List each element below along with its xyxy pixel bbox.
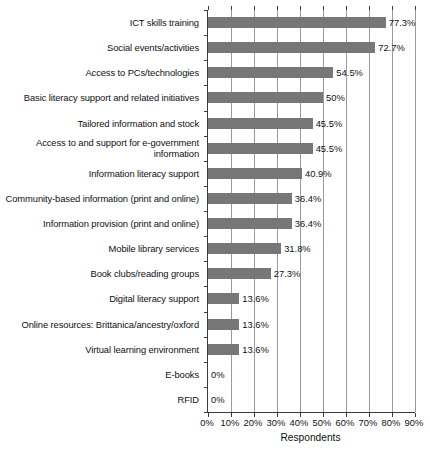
y-axis-tick bbox=[204, 161, 208, 162]
y-axis-tick bbox=[204, 10, 208, 11]
category-label: Digital literacy support bbox=[0, 293, 199, 304]
gridline bbox=[369, 10, 370, 412]
bar bbox=[208, 293, 239, 304]
bar bbox=[208, 319, 239, 330]
y-axis-tick bbox=[204, 85, 208, 86]
x-axis-tick bbox=[346, 6, 347, 10]
category-label: Access to and support for e-government i… bbox=[0, 137, 199, 159]
y-axis-tick bbox=[204, 312, 208, 313]
bar-value-label: 45.5% bbox=[313, 143, 343, 154]
x-axis-tick bbox=[277, 6, 278, 10]
y-axis-tick bbox=[204, 136, 208, 137]
bar bbox=[208, 344, 239, 355]
y-axis-tick bbox=[204, 186, 208, 187]
category-label: RFID bbox=[0, 394, 199, 405]
category-label: Information literacy support bbox=[0, 168, 199, 179]
bar-value-label: 27.3% bbox=[271, 268, 301, 279]
y-axis-tick bbox=[204, 211, 208, 212]
y-axis-tick bbox=[204, 412, 208, 413]
category-label: Mobile library services bbox=[0, 243, 199, 254]
bar bbox=[208, 268, 271, 279]
bar bbox=[208, 92, 323, 103]
x-axis-tick bbox=[415, 6, 416, 10]
category-label: Social events/activities bbox=[0, 42, 199, 53]
bar-value-label: 36.4% bbox=[292, 218, 322, 229]
bar-value-label: 54.5% bbox=[333, 67, 363, 78]
plot-area: 77.3%72.7%54.5%50%45.5%45.5%40.9%36.4%36… bbox=[207, 10, 415, 413]
category-label: Access to PCs/technologies bbox=[0, 67, 199, 78]
category-axis-labels: ICT skills trainingSocial events/activit… bbox=[0, 10, 203, 412]
bar-value-label: 36.4% bbox=[292, 193, 322, 204]
y-axis-tick bbox=[204, 362, 208, 363]
y-axis-tick bbox=[204, 387, 208, 388]
bar bbox=[208, 193, 292, 204]
bar-chart: ICT skills trainingSocial events/activit… bbox=[0, 0, 430, 458]
category-label: Virtual learning environment bbox=[0, 344, 199, 355]
bar bbox=[208, 118, 313, 129]
bar-value-label: 72.7% bbox=[375, 42, 405, 53]
bar bbox=[208, 243, 281, 254]
bar-value-label: 40.9% bbox=[302, 168, 332, 179]
bar bbox=[208, 168, 302, 179]
y-axis-tick bbox=[204, 261, 208, 262]
y-axis-tick bbox=[204, 35, 208, 36]
category-label: Book clubs/reading groups bbox=[0, 268, 199, 279]
category-label: Community-based information (print and o… bbox=[0, 193, 199, 204]
category-label: Information provision (print and online) bbox=[0, 218, 199, 229]
bar-value-label: 0% bbox=[208, 394, 225, 405]
gridline bbox=[392, 10, 393, 412]
x-axis-tick bbox=[369, 6, 370, 10]
bar-value-label: 13.6% bbox=[239, 319, 269, 330]
y-axis-tick bbox=[204, 111, 208, 112]
bar-value-label: 0% bbox=[208, 369, 225, 380]
category-label: Tailored information and stock bbox=[0, 118, 199, 129]
x-axis-tick bbox=[300, 6, 301, 10]
category-label: Online resources: Brittanica/ancestry/ox… bbox=[0, 319, 199, 330]
y-axis-tick bbox=[204, 236, 208, 237]
bar bbox=[208, 67, 333, 78]
x-axis-tick bbox=[254, 6, 255, 10]
category-label: ICT skills training bbox=[0, 17, 199, 28]
y-axis-tick bbox=[204, 337, 208, 338]
bar-value-label: 77.3% bbox=[386, 17, 416, 28]
x-axis-tick-labels: 0%10%20%30%40%50%60%70%80%90% bbox=[207, 417, 430, 431]
x-axis-tick-label: 90% bbox=[399, 417, 429, 428]
gridline bbox=[415, 10, 416, 412]
category-label: E-books bbox=[0, 369, 199, 380]
category-label: Basic literacy support and related initi… bbox=[0, 92, 199, 103]
bar bbox=[208, 143, 313, 154]
y-axis-tick bbox=[204, 60, 208, 61]
bar bbox=[208, 218, 292, 229]
x-axis-tick bbox=[231, 6, 232, 10]
bar-value-label: 50% bbox=[323, 92, 345, 103]
y-axis-tick bbox=[204, 286, 208, 287]
bar-value-label: 45.5% bbox=[313, 118, 343, 129]
x-axis-tick bbox=[392, 6, 393, 10]
bar-value-label: 13.6% bbox=[239, 344, 269, 355]
bar-value-label: 13.6% bbox=[239, 293, 269, 304]
bar bbox=[208, 17, 386, 28]
bar bbox=[208, 42, 375, 53]
bar-value-label: 31.8% bbox=[281, 243, 311, 254]
x-axis-title: Respondents bbox=[207, 432, 414, 443]
x-axis-tick bbox=[208, 6, 209, 10]
x-axis-tick bbox=[323, 6, 324, 10]
